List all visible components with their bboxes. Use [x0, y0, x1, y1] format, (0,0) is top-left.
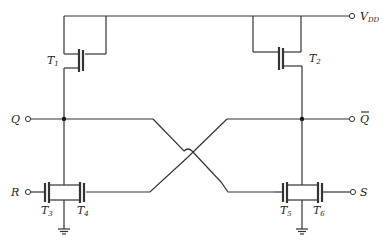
transistor-t2: T2 — [253, 16, 321, 119]
cross-coupling — [86, 119, 275, 192]
transistor-t1: T1 — [47, 16, 106, 119]
s-label: S — [360, 186, 368, 199]
t4-label: T4 — [77, 204, 89, 218]
t6-label: T6 — [313, 204, 325, 218]
r-label: R — [10, 186, 19, 199]
q-bar-node: Q — [227, 112, 369, 126]
sr-latch-diagram: VDD T1 T2 Q Q — [0, 0, 383, 242]
r-terminal — [25, 189, 30, 194]
transistor-pair-t5-t6: S T5 T6 — [275, 119, 368, 234]
t5-label: T5 — [280, 204, 292, 218]
q-label: Q — [11, 113, 20, 126]
transistor-pair-t3-t4: R T3 T4 — [10, 119, 89, 234]
vdd-label: VDD — [360, 10, 380, 24]
vdd-terminal — [349, 13, 354, 18]
q-bar-terminal — [349, 116, 354, 121]
ground-icon-left — [58, 229, 70, 234]
t2-label: T2 — [309, 52, 321, 66]
vdd-rail: VDD — [64, 10, 380, 24]
s-terminal — [350, 189, 355, 194]
t1-label: T1 — [47, 54, 59, 68]
q-node: Q — [11, 113, 153, 126]
t3-label: T3 — [41, 204, 53, 218]
q-terminal — [25, 116, 30, 121]
q-bar-label: Q — [360, 113, 369, 126]
ground-icon-right — [296, 229, 308, 234]
